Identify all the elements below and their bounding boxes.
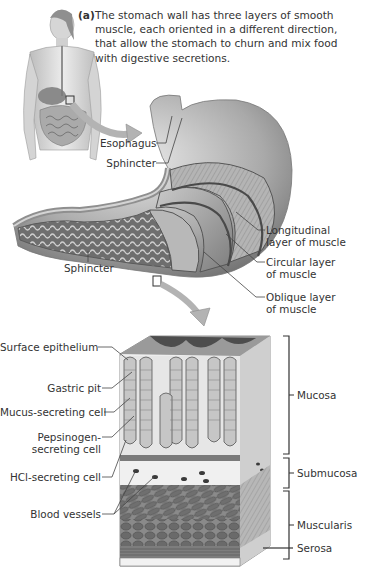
label-sphincter-upper: Sphincter	[100, 157, 156, 169]
caption-line: that allow the stomach to churn and mix …	[95, 36, 370, 50]
label-esophagus: Esophagus	[100, 137, 156, 149]
caption-line: with digestive secretions.	[95, 51, 370, 65]
label-line: of muscle	[266, 268, 335, 280]
label-line: layer of muscle	[266, 236, 346, 248]
label-circular-layer: Circular layer of muscle	[266, 256, 335, 281]
figure-caption: (a) The stomach wall has three layers of…	[95, 8, 370, 65]
stomach-wall-section	[120, 336, 270, 566]
label-longitudinal-layer: Longitudinal layer of muscle	[266, 224, 346, 249]
label-line: of muscle	[266, 303, 336, 315]
caption-line: muscle, each oriented in a different dir…	[95, 22, 370, 36]
label-serosa: Serosa	[297, 542, 332, 554]
label-line: Longitudinal	[266, 224, 346, 236]
label-sphincter-lower: Sphincter	[64, 262, 114, 274]
label-hcl-secreting-cell: HCl-secreting cell	[0, 471, 101, 483]
label-muscularis: Muscularis	[297, 519, 352, 531]
label-gastric-pit: Gastric pit	[0, 382, 101, 394]
label-line: secreting cell	[0, 443, 101, 455]
label-pepsinogen-secreting-cell: Pepsinogen- secreting cell	[0, 431, 101, 456]
label-line: Pepsinogen-	[0, 431, 101, 443]
panel-tag: (a)	[78, 8, 95, 22]
human-body-figure	[24, 10, 102, 160]
label-surface-epithelium: Surface epithelium	[0, 341, 97, 353]
label-line: Circular layer	[266, 256, 335, 268]
caption-line: The stomach wall has three layers of smo…	[95, 8, 370, 22]
label-oblique-layer: Oblique layer of muscle	[266, 291, 336, 316]
label-line: Oblique layer	[266, 291, 336, 303]
label-submucosa: Submucosa	[297, 467, 357, 479]
label-mucosa: Mucosa	[297, 389, 336, 401]
label-mucus-secreting-cell: Mucus-secreting cell	[0, 406, 103, 418]
label-blood-vessels: Blood vessels	[0, 508, 101, 520]
